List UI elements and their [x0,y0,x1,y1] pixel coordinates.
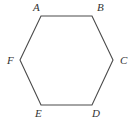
hexagon-figure: ABCDEF [0,0,133,122]
vertex-label-b: B [97,2,104,13]
vertex-label-d: D [92,108,100,119]
hexagon-shape [0,0,133,122]
hexagon-outline [20,16,113,105]
vertex-label-e: E [35,108,42,119]
vertex-label-f: F [7,55,14,66]
vertex-label-c: C [120,55,127,66]
vertex-label-a: A [33,2,40,13]
